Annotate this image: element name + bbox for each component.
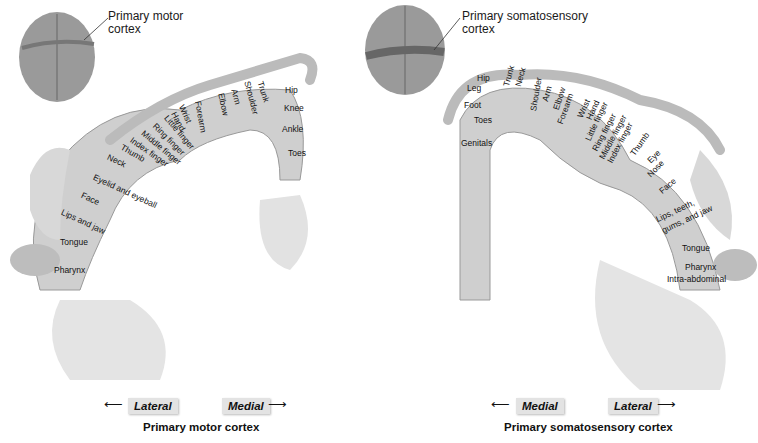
motor-segment: Toes	[288, 148, 306, 158]
arrow-right-icon: ⟶	[657, 397, 676, 412]
sensory-segment: Toes	[474, 115, 492, 125]
motor-callout-line2: cortex	[108, 23, 183, 36]
sensory-segment: Genitals	[461, 138, 492, 148]
sensory-segment: Tongue	[682, 243, 710, 253]
sensory-callout-line2: cortex	[462, 23, 588, 36]
sensory-callout-label: Primary somatosensory cortex	[462, 10, 588, 36]
motor-direction-lateral: Lateral	[128, 398, 178, 414]
sensory-segment: Foot	[464, 100, 481, 110]
sensory-segment: Pharynx	[685, 262, 716, 272]
motor-segment: Tongue	[60, 237, 88, 247]
arrow-left-icon: ⟵	[491, 397, 510, 412]
motor-segment: Knee	[284, 103, 304, 113]
motor-direction-medial: Medial	[222, 398, 270, 414]
motor-callout-label: Primary motor cortex	[108, 10, 183, 36]
sensory-direction-lateral: Lateral	[608, 398, 658, 414]
motor-segment: Hip	[285, 85, 298, 95]
sensory-direction-medial: Medial	[516, 398, 564, 414]
homunculus-illustrations	[0, 0, 758, 443]
sensory-segment: Intra-abdominal	[667, 274, 726, 284]
motor-segment: Ankle	[282, 124, 303, 134]
motor-segment: Pharynx	[54, 265, 85, 275]
motor-figure-title: Primary motor cortex	[143, 421, 259, 433]
sensory-figure-title: Primary somatosensory cortex	[504, 421, 673, 433]
sensory-segment: Leg	[467, 83, 481, 93]
sensory-segment: Hip	[477, 73, 490, 83]
arrow-right-icon: ⟶	[268, 397, 287, 412]
arrow-left-icon: ⟵	[104, 397, 123, 412]
